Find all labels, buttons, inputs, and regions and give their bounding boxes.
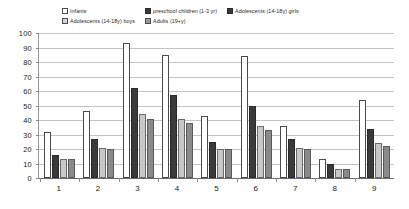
bar[interactable] — [304, 149, 311, 178]
bar[interactable] — [343, 169, 350, 178]
chart-legend: InfantsAdolescents (14-18y) boyspreschoo… — [62, 6, 402, 26]
plot-area — [38, 33, 394, 179]
bar[interactable] — [327, 164, 334, 179]
legend-item[interactable]: Adolescents (14-18y) girls — [227, 6, 299, 15]
x-tick-mark — [355, 178, 356, 182]
bar[interactable] — [139, 114, 146, 178]
bar[interactable] — [265, 130, 272, 178]
bar[interactable] — [44, 132, 51, 178]
bar[interactable] — [201, 116, 208, 178]
bar-group — [197, 33, 236, 178]
y-axis: 1009080706050403020100 — [0, 28, 36, 174]
bar[interactable] — [367, 129, 374, 178]
bar[interactable] — [217, 149, 224, 178]
legend-label: Adolescents (14-18y) boys — [70, 18, 135, 24]
y-tick-mark — [36, 62, 39, 63]
bar[interactable] — [280, 126, 287, 178]
legend-column: InfantsAdolescents (14-18y) boys — [62, 6, 135, 26]
bar[interactable] — [60, 159, 67, 178]
bar[interactable] — [249, 106, 256, 179]
x-tick-label: 9 — [355, 184, 394, 194]
y-tick-label: 50 — [23, 102, 32, 109]
bar-group — [315, 33, 354, 178]
y-tick-label: 10 — [23, 160, 32, 167]
bar-group — [237, 33, 276, 178]
bar[interactable] — [225, 149, 232, 178]
legend-label: Infants — [70, 8, 87, 14]
y-tick-label: 100 — [19, 30, 32, 37]
bar[interactable] — [209, 142, 216, 178]
x-tick-mark — [79, 178, 80, 182]
y-tick-mark — [36, 48, 39, 49]
x-tick-mark — [276, 178, 277, 182]
legend-label: Adults (19+y) — [153, 18, 186, 24]
bar[interactable] — [99, 148, 106, 178]
x-tick-label: 3 — [118, 184, 157, 194]
bar[interactable] — [296, 148, 303, 178]
legend-item[interactable]: preschool children (1-3 yr) — [145, 6, 217, 15]
bar[interactable] — [375, 143, 382, 178]
bar[interactable] — [257, 126, 264, 178]
bar-groups — [40, 33, 394, 178]
bar[interactable] — [186, 123, 193, 178]
x-tick-mark — [158, 178, 159, 182]
x-tick-label: 2 — [78, 184, 117, 194]
bar[interactable] — [241, 56, 248, 178]
bar[interactable] — [335, 169, 342, 178]
x-tick-label: 6 — [236, 184, 275, 194]
bar-group — [158, 33, 197, 178]
bar[interactable] — [123, 43, 130, 178]
bar[interactable] — [178, 119, 185, 178]
bar-group — [276, 33, 315, 178]
plot-wrapper: 1009080706050403020100 123456789 — [0, 28, 409, 209]
y-tick-mark — [36, 77, 39, 78]
legend-swatch-icon — [145, 18, 151, 24]
legend-swatch-icon — [227, 8, 233, 14]
bar[interactable] — [83, 111, 90, 178]
bar[interactable] — [91, 139, 98, 178]
x-tick-label: 8 — [315, 184, 354, 194]
bar[interactable] — [319, 159, 326, 178]
legend-label: Adolescents (14-18y) girls — [235, 8, 299, 14]
bar-group — [355, 33, 394, 178]
y-tick-label: 0 — [28, 175, 32, 182]
bar[interactable] — [147, 119, 154, 178]
x-tick-label: 4 — [157, 184, 196, 194]
bar[interactable] — [52, 155, 59, 178]
legend-item[interactable]: Adolescents (14-18y) boys — [62, 16, 135, 25]
bar[interactable] — [131, 88, 138, 178]
y-tick-mark — [36, 149, 39, 150]
y-tick-mark — [36, 91, 39, 92]
bar[interactable] — [359, 100, 366, 178]
x-tick-label: 5 — [197, 184, 236, 194]
legend-item[interactable]: Adults (19+y) — [145, 16, 217, 25]
x-tick-mark — [315, 178, 316, 182]
y-tick-mark — [36, 106, 39, 107]
x-tick-mark — [197, 178, 198, 182]
bar[interactable] — [383, 146, 390, 178]
bar[interactable] — [288, 139, 295, 178]
y-tick-label: 20 — [23, 146, 32, 153]
y-tick-label: 40 — [23, 117, 32, 124]
x-tick-label: 7 — [276, 184, 315, 194]
y-tick-label: 30 — [23, 131, 32, 138]
legend-item[interactable]: Infants — [62, 6, 135, 15]
bar[interactable] — [170, 95, 177, 178]
y-tick-mark — [36, 178, 39, 179]
legend-column: preschool children (1-3 yr)Adults (19+y) — [145, 6, 217, 26]
bar-group — [40, 33, 79, 178]
bar[interactable] — [68, 159, 75, 178]
legend-swatch-icon — [62, 18, 68, 24]
x-tick-mark — [237, 178, 238, 182]
y-tick-label: 80 — [23, 59, 32, 66]
y-tick-mark — [36, 164, 39, 165]
bar-group — [119, 33, 158, 178]
bar-chart: InfantsAdolescents (14-18y) boyspreschoo… — [0, 0, 409, 209]
bar[interactable] — [107, 149, 114, 178]
x-axis: 123456789 — [39, 184, 394, 194]
bar[interactable] — [162, 55, 169, 178]
x-tick-label: 1 — [39, 184, 78, 194]
legend-swatch-icon — [145, 8, 151, 14]
legend-swatch-icon — [62, 8, 68, 14]
y-tick-mark — [36, 135, 39, 136]
